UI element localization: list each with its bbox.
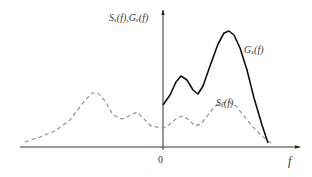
g-curve-label: Gₓ(f) [244, 45, 264, 55]
y-axis-label: Sₓ(f),Gₓ(f) [109, 13, 148, 23]
spectral-density-chart [0, 0, 312, 177]
s-curve-label: Sₓ(f) [216, 98, 233, 108]
origin-tick-label: 0 [158, 155, 163, 165]
x-axis-label: f [288, 155, 291, 167]
s-curve-line [25, 93, 272, 144]
